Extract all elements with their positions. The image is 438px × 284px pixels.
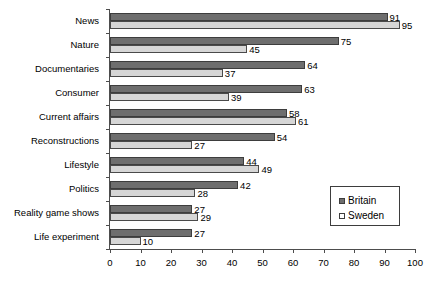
bar-britain	[110, 13, 388, 21]
x-axis-tick	[415, 249, 416, 253]
x-axis-tick	[110, 249, 111, 253]
x-axis-tick-label: 100	[395, 257, 435, 268]
bar-sweden	[110, 117, 296, 125]
y-axis-tick	[106, 105, 110, 106]
x-axis-tick	[324, 249, 325, 253]
chart-legend: BritainSweden	[330, 186, 400, 226]
category-label: Consumer	[0, 88, 99, 98]
bar-value-label: 63	[304, 85, 315, 94]
legend-swatch-icon	[339, 198, 345, 204]
y-axis-tick	[106, 129, 110, 130]
category-label: Politics	[0, 184, 99, 194]
bar-britain	[110, 37, 339, 45]
bar-britain	[110, 109, 287, 117]
y-axis-tick	[106, 153, 110, 154]
bar-sweden	[110, 141, 192, 149]
bar-value-label: 10	[143, 237, 154, 246]
bar-sweden	[110, 21, 400, 29]
bar-value-label: 28	[197, 189, 208, 198]
bar-chart: NewsNatureDocumentariesConsumerCurrent a…	[0, 0, 438, 284]
bar-britain	[110, 85, 302, 93]
category-label: Current affairs	[0, 112, 99, 122]
category-label: Lifestyle	[0, 160, 99, 170]
category-axis-labels: NewsNatureDocumentariesConsumerCurrent a…	[0, 9, 104, 249]
bar-britain	[110, 157, 244, 165]
category-label: Reconstructions	[0, 136, 99, 146]
y-axis-tick	[106, 81, 110, 82]
bar-value-label: 27	[194, 141, 205, 150]
y-axis-tick	[106, 57, 110, 58]
bar-value-label: 45	[249, 45, 260, 54]
bar-britain	[110, 205, 192, 213]
legend-item-britain[interactable]: Britain	[339, 195, 376, 207]
y-axis-tick	[106, 9, 110, 10]
legend-swatch-icon	[339, 213, 345, 219]
y-axis-tick	[106, 177, 110, 178]
bar-value-label: 64	[307, 61, 318, 70]
category-label: News	[0, 16, 99, 26]
bar-sweden	[110, 189, 195, 197]
x-axis-tick	[354, 249, 355, 253]
legend-item-sweden[interactable]: Sweden	[339, 210, 384, 222]
bar-value-label: 61	[298, 117, 309, 126]
y-axis-tick	[106, 249, 110, 250]
x-axis-tick	[171, 249, 172, 253]
bar-sweden	[110, 213, 198, 221]
y-axis-tick	[106, 225, 110, 226]
bar-sweden	[110, 165, 259, 173]
x-axis-tick	[385, 249, 386, 253]
bar-value-label: 42	[240, 181, 251, 190]
x-axis-tick	[263, 249, 264, 253]
category-label: Nature	[0, 40, 99, 50]
legend-label: Sweden	[348, 211, 384, 221]
bar-britain	[110, 181, 238, 189]
bar-sweden	[110, 237, 141, 245]
bar-sweden	[110, 69, 223, 77]
category-label: Reality game shows	[0, 208, 99, 218]
bar-value-label: 29	[200, 213, 211, 222]
category-label: Life experiment	[0, 232, 99, 242]
legend-label: Britain	[348, 196, 376, 206]
bar-value-label: 27	[194, 229, 205, 238]
x-axis-tick	[232, 249, 233, 253]
bar-sweden	[110, 93, 229, 101]
bar-sweden	[110, 45, 247, 53]
y-axis-tick	[106, 33, 110, 34]
bar-britain	[110, 61, 305, 69]
bar-value-label: 49	[261, 165, 272, 174]
bar-value-label: 37	[225, 69, 236, 78]
bar-britain	[110, 133, 275, 141]
category-label: Documentaries	[0, 64, 99, 74]
x-axis-tick	[293, 249, 294, 253]
bar-value-label: 54	[277, 133, 288, 142]
bar-value-label: 39	[231, 93, 242, 102]
x-axis-tick	[202, 249, 203, 253]
bar-value-label: 75	[341, 37, 352, 46]
bar-value-label: 95	[402, 21, 413, 30]
y-axis-tick	[106, 201, 110, 202]
x-axis-tick	[141, 249, 142, 253]
